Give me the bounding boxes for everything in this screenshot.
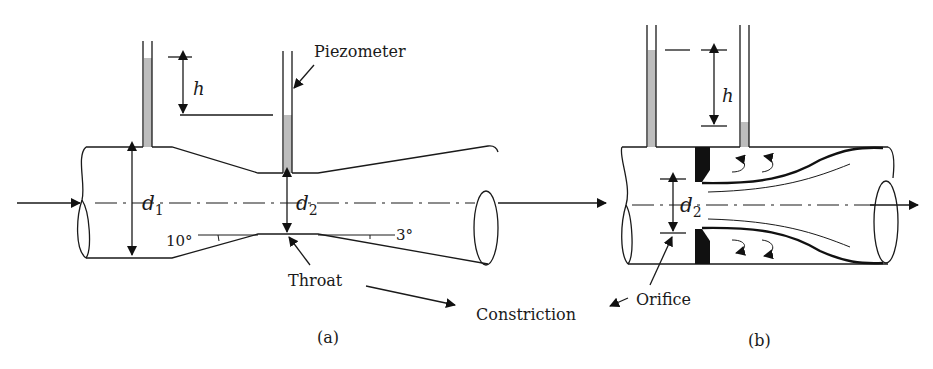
venturi-meter <box>17 41 606 265</box>
piezometer-pointer <box>294 65 314 88</box>
venturi-bottom-wall <box>86 234 488 264</box>
orifice-pointer <box>650 237 672 285</box>
diverge-angle-label: 3° <box>396 226 413 244</box>
d2-label-a: d2 <box>296 191 318 218</box>
d1-label: d1 <box>142 191 164 218</box>
head-label-a: h <box>193 78 205 99</box>
throat-pointer <box>289 237 310 265</box>
upstream-piezometer-b <box>647 25 656 147</box>
orifice-label: Orifice <box>636 290 691 309</box>
downstream-piezometer-b <box>740 25 749 147</box>
orifice-outlet-end <box>874 181 898 263</box>
orifice-meter <box>621 25 918 285</box>
constriction-arrow-from-orifice <box>610 298 628 306</box>
outlet-pipe-end <box>474 191 498 265</box>
constriction-label: Constriction <box>476 305 576 324</box>
d2-label-b: d2 <box>680 193 702 220</box>
jet-boundary-top <box>702 148 883 183</box>
eddy-icons <box>732 156 773 256</box>
caption-b: (b) <box>748 331 771 350</box>
converge-angle-label: 10° <box>166 232 193 250</box>
upstream-piezometer <box>143 41 152 147</box>
orifice-plate-bottom <box>695 229 710 264</box>
constriction-arrow-from-throat <box>366 286 455 305</box>
head-label-b: h <box>722 85 734 106</box>
converge-angle-arc <box>218 235 219 241</box>
piezometer-label: Piezometer <box>314 42 406 61</box>
caption-a: (a) <box>317 328 339 347</box>
throat-label: Throat <box>288 271 343 290</box>
jet-boundary-bottom <box>702 228 883 263</box>
orifice-plate-top <box>695 147 710 182</box>
throat-piezometer <box>283 51 292 173</box>
flowmeter-diagram: Piezometer h d1 d2 10° 3° Throat (a) Con… <box>0 0 933 369</box>
